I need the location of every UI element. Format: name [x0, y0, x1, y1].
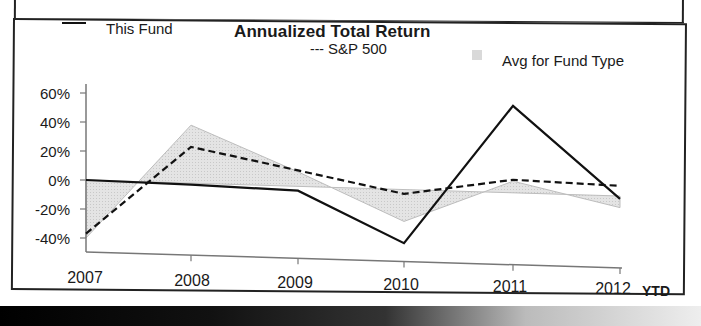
- x-axis-line: [86, 252, 622, 268]
- plot-area: [0, 0, 701, 326]
- scan-edge-shadow: [0, 306, 701, 326]
